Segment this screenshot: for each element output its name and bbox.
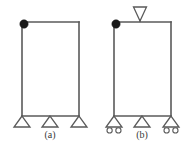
panel-a-supports <box>14 116 87 127</box>
pinned-support-middle <box>134 116 150 127</box>
roller-wheel-inner <box>164 128 169 133</box>
panel-b: (b) <box>106 7 179 141</box>
inverted-triangle-icon <box>134 7 147 21</box>
pinned-support-right <box>71 116 87 127</box>
panel-b-caption: (b) <box>136 129 148 141</box>
panel-a-caption: (a) <box>44 129 55 141</box>
pinned-support-left <box>14 116 30 127</box>
roller-wheel-outer <box>116 128 121 133</box>
roller-triangle <box>163 116 179 127</box>
roller-support-right <box>163 116 179 133</box>
roller-wheel-inner <box>107 128 112 133</box>
panel-a: (a) <box>14 20 87 141</box>
lumped-mass-marker <box>20 20 28 28</box>
structural-frame-figure: (a) <box>0 0 185 145</box>
panel-b-frame <box>114 22 171 116</box>
applied-load-marker <box>134 7 147 22</box>
roller-triangle <box>106 116 122 127</box>
pinned-support-middle <box>42 116 58 127</box>
roller-wheel-outer <box>173 128 178 133</box>
figure-canvas: (a) <box>0 0 185 145</box>
roller-support-left <box>106 116 122 133</box>
panel-a-frame <box>22 22 79 116</box>
lumped-mass-marker <box>112 20 120 28</box>
